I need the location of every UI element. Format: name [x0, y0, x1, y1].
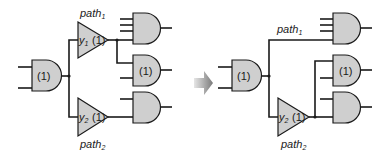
branch-wire — [117, 40, 133, 63]
branch-wire — [315, 61, 333, 117]
path2-label: path2 — [79, 138, 105, 151]
fanout-gate-3 — [333, 92, 360, 123]
path1-label: path1 — [276, 23, 302, 36]
fanout-gate-1 — [133, 13, 161, 44]
buffer-y2-weight: (1) — [292, 111, 305, 123]
circuit-diagram: (1) y1 (1) path1 (1) y2 (1) path2 — [0, 0, 389, 158]
after-circuit: (1) path1 y2 (1) path2 (1) — [218, 13, 372, 151]
fanout-bus — [69, 40, 78, 117]
main-gate-label: (1) — [37, 70, 50, 82]
right-arrow-icon — [194, 71, 213, 95]
gate2-label: (1) — [139, 65, 152, 77]
fanout-gate-3 — [133, 92, 160, 123]
buffer-y1-weight: (1) — [92, 34, 105, 46]
before-circuit: (1) y1 (1) path1 (1) y2 (1) path2 — [18, 7, 172, 151]
buffer-y2-weight: (1) — [92, 111, 105, 123]
path1-label: path1 — [79, 7, 105, 20]
fanout-gate-1 — [333, 13, 361, 44]
path2-label: path2 — [280, 138, 306, 151]
main-gate-label: (1) — [237, 70, 250, 82]
gate2-label: (1) — [339, 65, 352, 77]
